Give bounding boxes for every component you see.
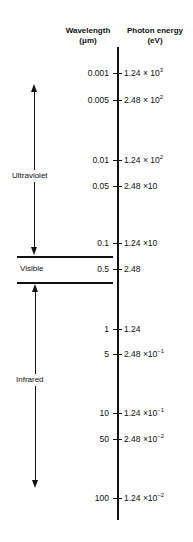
- energy-exponent: −1: [157, 407, 164, 413]
- energy-value: 1.24: [124, 324, 141, 334]
- tick-mark: [113, 329, 122, 330]
- energy-mantissa: 2.48 × 10: [124, 95, 160, 105]
- tick-mark: [113, 186, 122, 187]
- tick-mark: [113, 269, 122, 270]
- energy-value: 1.24 × 102: [124, 155, 163, 165]
- energy-value: 2.48 ×10−2: [124, 434, 164, 444]
- visible-upper-boundary: [17, 256, 113, 258]
- tick-mark: [113, 160, 122, 161]
- energy-mantissa: 1.24 ×10: [124, 238, 157, 248]
- scale-axis: [117, 47, 119, 520]
- energy-header: Photon energy (eV): [120, 26, 190, 46]
- infrared-label: Infrared: [16, 374, 44, 386]
- wavelength-value: 100: [95, 493, 109, 503]
- energy-exponent: 2: [160, 154, 163, 160]
- energy-mantissa: 1.24: [124, 324, 141, 334]
- tick-mark: [113, 243, 122, 244]
- energy-value: 2.48: [124, 264, 141, 274]
- energy-value: 1.24 ×10−2: [124, 493, 164, 503]
- energy-mantissa: 1.24 ×10: [124, 408, 157, 418]
- ultraviolet-arrow-down-icon: [31, 247, 37, 255]
- tick-mark: [113, 100, 122, 101]
- energy-value: 1.24 × 103: [124, 68, 163, 78]
- energy-mantissa: 2.48 ×10: [124, 181, 157, 191]
- wavelength-value: 0.005: [88, 95, 109, 105]
- wavelength-value: 5: [104, 349, 109, 359]
- energy-mantissa: 2.48: [124, 264, 141, 274]
- tick-mark: [113, 498, 122, 499]
- visible-label: Visible: [20, 264, 43, 274]
- energy-mantissa: 2.48 ×10: [124, 349, 157, 359]
- wavelength-value: 0.001: [88, 68, 109, 78]
- wavelength-value: 0.01: [92, 155, 109, 165]
- energy-mantissa: 1.24 ×10: [124, 493, 157, 503]
- wavelength-value: 50: [100, 434, 109, 444]
- tick-mark: [113, 354, 122, 355]
- wavelength-value: 0.05: [92, 181, 109, 191]
- energy-exponent: −2: [157, 433, 164, 439]
- wavelength-header-title: Wavelength: [58, 26, 118, 36]
- energy-exponent: 2: [160, 94, 163, 100]
- wavelength-value: 1: [104, 324, 109, 334]
- tick-mark: [113, 73, 122, 74]
- energy-exponent: 3: [160, 67, 163, 73]
- wavelength-value: 0.5: [97, 264, 109, 274]
- energy-exponent: −1: [157, 348, 164, 354]
- energy-header-unit: (eV): [120, 36, 190, 46]
- energy-value: 2.48 × 102: [124, 95, 163, 105]
- tick-mark: [113, 439, 122, 440]
- tick-mark: [113, 413, 122, 414]
- energy-mantissa: 1.24 × 10: [124, 155, 160, 165]
- infrared-arrow-down-icon: [32, 480, 38, 488]
- energy-mantissa: 1.24 × 10: [124, 68, 160, 78]
- energy-value: 2.48 ×10: [124, 181, 157, 191]
- wavelength-value: 10: [100, 408, 109, 418]
- wavelength-value: 0.1: [97, 238, 109, 248]
- energy-value: 2.48 ×10−1: [124, 349, 164, 359]
- energy-header-title: Photon energy: [120, 26, 190, 36]
- wavelength-header: Wavelength (μm): [58, 26, 118, 46]
- energy-exponent: −2: [157, 492, 164, 498]
- wavelength-header-unit: (μm): [58, 36, 118, 46]
- energy-mantissa: 2.48 ×10: [124, 434, 157, 444]
- energy-value: 1.24 ×10: [124, 238, 157, 248]
- ultraviolet-label: Ultraviolet: [12, 170, 48, 182]
- energy-value: 1.24 ×10−1: [124, 408, 164, 418]
